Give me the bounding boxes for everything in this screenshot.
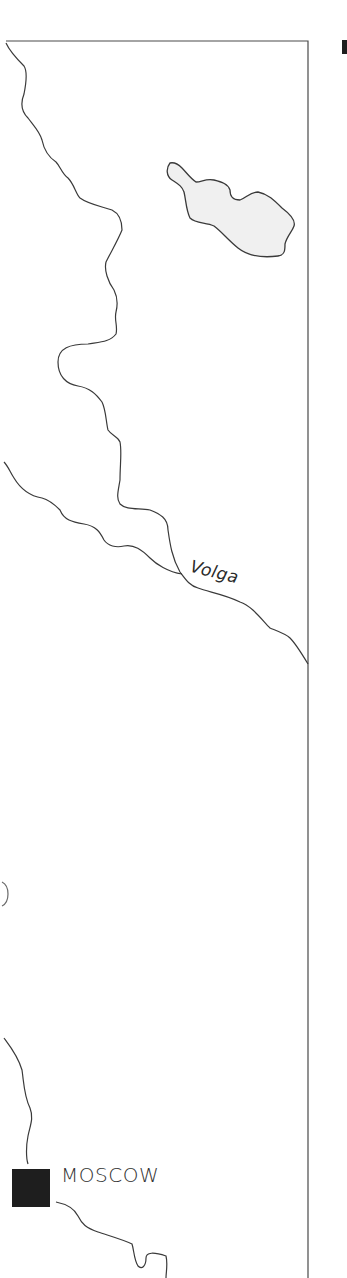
river-fragment-left [2, 882, 8, 906]
river-moskva-north [4, 1038, 32, 1164]
city-marker-moscow [12, 1169, 50, 1207]
lake [167, 163, 294, 257]
river-tributary-west [4, 462, 182, 574]
city-label-moscow: MOSCOW [61, 1163, 159, 1187]
clipped-marker [342, 40, 347, 54]
river-volga-upper [6, 43, 308, 664]
map-canvas [0, 0, 347, 1278]
river-moskva-south [56, 1202, 167, 1278]
